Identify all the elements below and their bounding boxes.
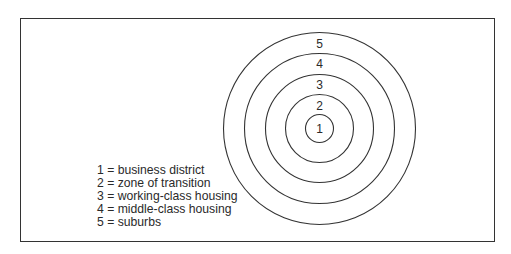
zone-3-label: 3 — [316, 78, 323, 92]
zone-2-label: 2 — [316, 99, 323, 113]
legend-item-5: 5 = suburbs — [97, 216, 238, 229]
zone-4-label: 4 — [316, 57, 323, 71]
concentric-rings: 5 4 3 2 1 — [0, 0, 511, 254]
legend: 1 = business district 2 = zone of transi… — [97, 164, 238, 229]
zone-1-label: 1 — [316, 122, 323, 136]
zone-5-label: 5 — [316, 37, 323, 51]
